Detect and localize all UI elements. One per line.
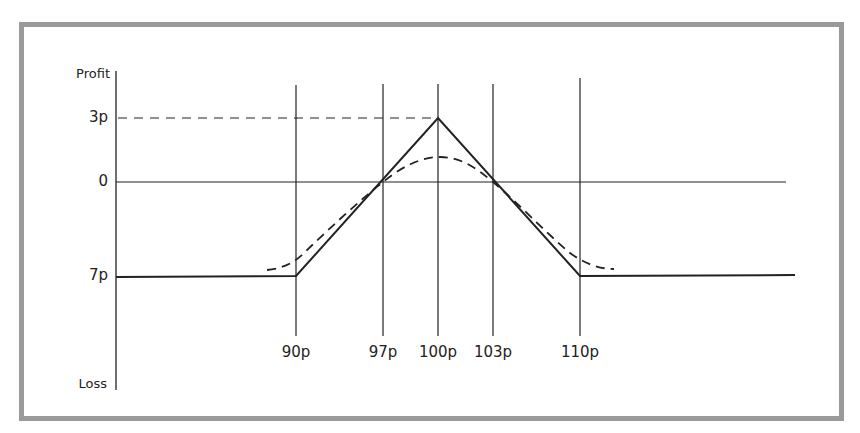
payoff-chart — [0, 0, 860, 433]
x-tick-100p: 100p — [408, 345, 468, 360]
y-tick-3p: 3p — [28, 110, 108, 125]
x-tick-103p: 103p — [463, 345, 523, 360]
y-axis-bottom-label: Loss — [27, 377, 107, 390]
x-tick-110p: 110p — [550, 345, 610, 360]
x-tick-97p: 97p — [353, 345, 413, 360]
payoff-expiry-line — [116, 118, 795, 277]
y-axis-top-label: Profit — [30, 67, 110, 80]
y-tick-7p: 7p — [28, 268, 108, 283]
payoff-before-expiry-curve — [267, 157, 614, 270]
y-tick-0: 0 — [28, 174, 108, 189]
x-tick-90p: 90p — [266, 345, 326, 360]
